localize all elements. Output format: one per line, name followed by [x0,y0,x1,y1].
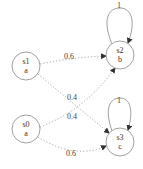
svg-text:0.4: 0.4 [67,112,77,121]
svg-text:1: 1 [117,96,121,105]
self-loop-s2: 1 [107,1,132,44]
edge-s0-s3: 0.6 [38,137,106,158]
svg-text:s1: s1 [22,57,29,66]
svg-text:a: a [24,129,28,138]
edge-s1-s3: 0.4 [38,74,109,133]
node-s0: s0 a [12,115,40,143]
svg-text:c: c [118,142,122,151]
self-loop-s3: 1 [108,96,131,131]
svg-text:s0: s0 [22,120,29,129]
svg-text:0.4: 0.4 [67,93,77,102]
svg-text:a: a [24,66,28,75]
svg-text:s3: s3 [116,133,123,142]
svg-text:s2: s2 [116,46,123,55]
markov-chain-diagram: 0.6 0.4 0.4 0.6 1 1 s1 a s0 a s2 b s3 c [0,0,143,169]
svg-text:0.6: 0.6 [66,149,76,158]
edge-s1-s2: 0.6 [40,52,106,64]
svg-text:0.6: 0.6 [64,52,74,61]
svg-text:b: b [118,55,122,64]
node-s1: s1 a [12,52,40,80]
edge-s0-s2: 0.4 [40,68,115,127]
svg-text:1: 1 [117,1,121,10]
node-s2: s2 b [106,41,134,69]
node-s3: s3 c [106,128,134,156]
